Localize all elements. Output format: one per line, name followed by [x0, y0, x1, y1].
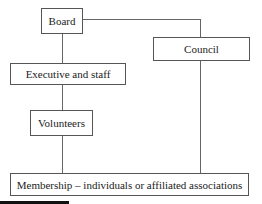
- node-board: Board: [41, 8, 83, 34]
- connector-volunteers-membership: [62, 135, 63, 173]
- connector-executive-volunteers: [62, 84, 63, 110]
- node-council: Council: [153, 37, 250, 61]
- connector-board-council-vertical: [200, 19, 201, 37]
- connector-board-council-horizontal: [82, 19, 201, 20]
- node-council-label: Council: [184, 43, 219, 55]
- node-membership-label: Membership – individuals or affiliated a…: [17, 179, 243, 191]
- node-executive-label: Executive and staff: [26, 68, 111, 80]
- node-executive: Executive and staff: [10, 63, 126, 85]
- node-membership: Membership – individuals or affiliated a…: [10, 173, 249, 196]
- connector-council-membership: [200, 60, 201, 173]
- decorative-rule: [0, 201, 69, 204]
- connector-board-executive: [62, 33, 63, 63]
- node-volunteers: Volunteers: [30, 110, 93, 136]
- node-board-label: Board: [49, 15, 76, 27]
- node-volunteers-label: Volunteers: [38, 117, 85, 129]
